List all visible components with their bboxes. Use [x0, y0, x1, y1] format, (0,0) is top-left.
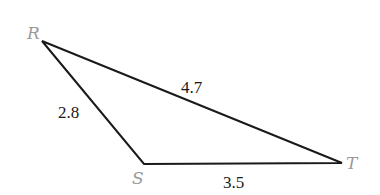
- side-label-st: 3.5: [223, 173, 244, 192]
- vertex-label-s: S: [132, 168, 144, 188]
- side-label-rt: 4.7: [181, 78, 203, 97]
- vertex-label-r: R: [26, 23, 40, 43]
- vertex-label-t: T: [346, 153, 359, 173]
- triangle-diagram: R S T 2.8 4.7 3.5: [0, 0, 380, 195]
- triangle-rst: [42, 41, 342, 164]
- side-label-rs: 2.8: [58, 103, 79, 122]
